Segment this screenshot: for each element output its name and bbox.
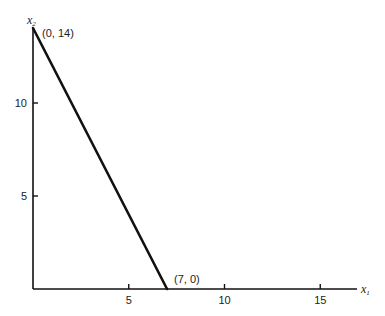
constraint-line (33, 28, 167, 289)
y-tick-label: 10 (15, 97, 27, 109)
x-ticks: 51015 (126, 284, 327, 306)
x-tick-label: 10 (218, 294, 230, 306)
chart-canvas: 510 51015 (0, 14) (7, 0) x2 x1 (0, 0, 385, 316)
x-tick-label: 5 (126, 294, 132, 306)
y-axis-label: x2 (26, 13, 36, 28)
annotation-point-7-0: (7, 0) (174, 273, 200, 285)
y-tick-label: 5 (21, 190, 27, 202)
x-tick-label: 15 (314, 294, 326, 306)
annotation-point-0-14: (0, 14) (42, 27, 74, 39)
y-ticks: 510 (15, 97, 38, 202)
x-axis-label: x1 (360, 282, 370, 297)
